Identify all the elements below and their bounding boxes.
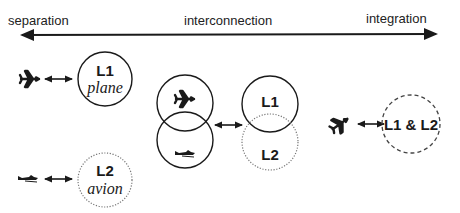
l2-label: L2: [261, 146, 279, 163]
l2-word: avion: [87, 180, 123, 197]
airplane-icon: [175, 91, 194, 107]
airplane-icon: [20, 71, 39, 87]
l1-label: L1: [261, 93, 279, 110]
language-circles: L1 L2: [242, 76, 298, 170]
l2-avion-circle: L2 avion: [78, 153, 132, 207]
small-airplane-icon: [18, 175, 38, 182]
l1-word: plane: [86, 79, 123, 97]
l1-plane-circle: L1 plane: [78, 52, 132, 106]
concept-circles: [157, 75, 213, 168]
small-airplane-icon: [175, 150, 195, 157]
l1-l2-label: L1 & L2: [384, 116, 438, 133]
label-integration: integration: [366, 11, 427, 26]
l2-label: L2: [96, 162, 114, 179]
airplane-icon: [327, 112, 352, 136]
integrated-l1-l2-circle: L1 & L2: [382, 95, 440, 153]
bilingual-lexicon-diagram: separation interconnection integration L…: [0, 0, 460, 213]
label-separation: separation: [8, 13, 69, 28]
concept-circle-bottom: [157, 112, 213, 168]
continuum-arrow: [22, 34, 436, 35]
l1-label: L1: [96, 62, 114, 79]
label-interconnection: interconnection: [184, 13, 272, 28]
